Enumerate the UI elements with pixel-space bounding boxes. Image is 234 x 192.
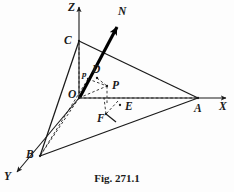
label-F: F <box>96 112 105 124</box>
point-o-dot <box>78 97 80 99</box>
geometry-diagram: ZXY OABCDEFPpN Fig. 271.1 <box>0 0 234 192</box>
label-E: E <box>124 100 133 112</box>
dash-p-P <box>88 79 107 86</box>
edge-B-A <box>40 98 198 156</box>
label-N: N <box>117 5 127 17</box>
point-f-dot <box>105 113 107 115</box>
label-A: A <box>193 102 202 114</box>
point-b-dot <box>39 155 41 157</box>
label-D: D <box>91 63 101 75</box>
point-p-dot <box>87 78 89 80</box>
dash-O-B <box>40 98 79 156</box>
label-O: O <box>68 88 76 100</box>
point-c-dot <box>78 40 80 42</box>
point-d-dot <box>96 77 98 79</box>
x-axis-label: X <box>218 100 227 112</box>
edge-F-plane <box>106 114 116 122</box>
point-p-dot <box>106 85 108 87</box>
point-e-dot <box>119 104 121 106</box>
point-a-dot <box>197 97 199 99</box>
label-B: B <box>25 148 34 160</box>
y-axis-label: Y <box>4 170 12 182</box>
label-P: P <box>112 79 120 91</box>
z-axis-label: Z <box>67 1 75 13</box>
label-C: C <box>64 34 72 46</box>
figure-container: ZXY OABCDEFPpN Fig. 271.1 <box>0 0 234 192</box>
figure-caption: Fig. 271.1 <box>94 172 140 184</box>
label-p: p <box>81 69 87 79</box>
dash-E-F <box>106 101 118 114</box>
dash-D-P <box>97 78 107 86</box>
dash-p-B <box>40 79 88 156</box>
